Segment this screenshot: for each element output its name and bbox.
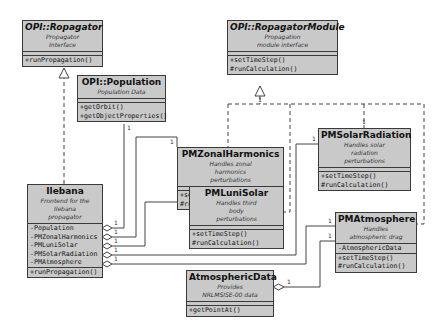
class-name: PMSolarRadiation [321,130,408,141]
class-description: Propagator [25,33,100,41]
realization-lunisolar [283,104,290,212]
operation: +setTimeStep() [338,254,414,263]
multiplicity-label: 1 [287,278,291,285]
operations-compartment: +setTimeStep() #runCalculation() [319,172,410,190]
class-description: Handles solar [321,141,408,149]
class-description: body [192,207,281,215]
class-name: Ilebana [30,186,100,197]
aggregation-diamond [102,252,112,258]
class-description: Frontend for the [30,197,100,205]
realization-atmosphere [416,104,424,224]
operation: #runCalculation() [230,65,335,74]
multiplicity-label: 1 [114,237,118,244]
class-pm-atmosphere[interactable]: PMAtmosphere Handles atmospheric drag -A… [335,212,417,273]
aggregation-diamond [273,284,284,290]
class-header: PMZonalHarmonics Handles zonal harmonics… [178,148,283,187]
class-description: Interface [25,41,100,49]
operations-compartment: +getOrbit() +getObjectProperties() [78,103,165,121]
class-header: PMLuniSolar Handles third body perturbat… [190,187,283,226]
operation: +getOrbit() [80,103,163,112]
operation: +setTimeStep() [192,230,281,239]
class-description: propagator [30,213,100,221]
class-pm-luni-solar[interactable]: PMLuniSolar Handles third body perturbat… [189,186,284,249]
attributes-compartment: -AtmosphericData [336,244,416,254]
realization-arrowhead-propagator [59,68,69,78]
class-name: PMAtmosphere [338,214,414,225]
class-description: Handles [338,225,414,233]
multiplicity-label: 1 [328,232,332,239]
operation: #runCalculation() [338,262,414,271]
class-pm-solar-radiation[interactable]: PMSolarRadiation Handles solar radiation… [318,128,411,191]
class-description: NRLMSISE-00 data [189,291,271,299]
attribute: -PMLuniSolar [30,241,100,250]
class-description: perturbations [180,176,281,184]
aggregation-diamond [102,261,112,267]
class-header: AtmosphericData Provides NRLMSISE-00 dat… [187,271,273,302]
class-header: OPI::Population Population Data [78,76,165,99]
class-atmospheric-data[interactable]: AtmosphericData Provides NRLMSISE-00 dat… [186,270,274,317]
class-name: AtmosphericData [189,272,271,283]
class-description: perturbations [192,215,281,223]
operation: +runPropagation() [30,268,100,277]
class-description: atmospheric drag [338,233,414,241]
class-opi-population[interactable]: OPI::Population Population Data +getOrbi… [77,75,166,122]
operation: +getPointAt() [189,306,271,315]
class-description: module interface [230,41,335,49]
aggregation-population [112,124,124,228]
operations-compartment: +setTimeStep() #runCalculation() [228,56,337,74]
class-name: PMLuniSolar [192,188,281,199]
class-ilebana[interactable]: Ilebana Frontend for the Ilebana propaga… [27,184,103,278]
multiplicity-label: 1 [258,96,262,103]
class-description: Population Data [80,88,163,96]
multiplicity-label: 1 [114,246,118,253]
class-header: Ilebana Frontend for the Ilebana propaga… [28,185,102,224]
operation: +setTimeStep() [321,172,408,181]
operation: #runCalculation() [192,239,281,248]
multiplicity-label: 1 [328,217,332,224]
class-description: perturbations [321,157,408,165]
class-description: Propagation [230,33,335,41]
multiplicity-label: 1 [170,138,174,145]
attribute: -PMZonalHarmonics [30,233,100,242]
operations-compartment: +runPropagation() [23,56,102,66]
operation: +setTimeStep() [230,56,335,65]
class-description: harmonics [180,168,281,176]
class-name: OPI::Ropagator [25,22,100,33]
aggregation-diamond [102,234,112,240]
attribute: -PMAtmosphere [30,258,100,267]
class-description: Handles zonal [180,160,281,168]
class-header: OPI::RopagatorModule Propagation module … [228,21,337,52]
class-name: OPI::RopagatorModule [230,22,335,33]
class-header: PMSolarRadiation Handles solar radiation… [319,129,410,168]
operations-compartment: +setTimeStep() #runCalculation() [190,230,283,248]
attribute: -PMSolarRadiation [30,250,100,259]
attributes-compartment: -Population -PMZonalHarmonics -PMLuniSol… [28,224,102,268]
multiplicity-label: 1 [362,118,366,125]
multiplicity-label: 1 [114,228,118,235]
multiplicity-label: 1 [312,135,316,142]
multiplicity-label: 1 [114,255,118,262]
operation: #runCalculation() [321,181,408,190]
class-description: Handles third [192,199,281,207]
multiplicity-label: 1 [127,124,131,131]
class-description: Provides [189,283,271,291]
operation: +runPropagation() [25,56,100,65]
operations-compartment: +runPropagation() [28,268,102,278]
class-name: OPI::Population [80,77,163,88]
class-header: OPI::Ropagator Propagator Interface [23,21,102,52]
class-opi-propagator[interactable]: OPI::Ropagator Propagator Interface +run… [22,20,103,67]
multiplicity-label: 1 [114,219,118,226]
class-opi-propagator-module[interactable]: OPI::RopagatorModule Propagation module … [227,20,338,75]
attribute: -AtmosphericData [338,244,414,253]
class-name: PMZonalHarmonics [180,149,281,160]
aggregation-diamond [102,243,112,249]
operations-compartment: +getPointAt() [187,306,273,316]
class-header: PMAtmosphere Handles atmospheric drag [336,213,416,244]
operation: +getObjectProperties() [80,112,163,121]
operations-compartment: +setTimeStep() #runCalculation() [336,254,416,272]
attribute: -Population [30,224,100,233]
class-description: radiation [321,149,408,157]
class-description: Ilebana [30,205,100,213]
realization-arrowhead-module [255,86,265,96]
aggregation-diamond [102,225,112,231]
